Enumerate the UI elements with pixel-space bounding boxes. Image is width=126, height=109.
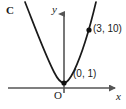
part-label: C [6,5,14,16]
point-marker-y-intercept [61,80,66,85]
y-axis-label: y [52,4,57,15]
origin-label: O [54,90,62,101]
x-axis-label: x [116,91,121,102]
point-marker-3-10 [86,27,91,32]
point-label-0-1: (0, 1) [73,69,96,79]
parabola-figure: C y x O (3, 10) (0, 1) [0,0,126,109]
point-label-3-10: (3, 10) [93,24,122,34]
graph-canvas [0,0,126,109]
